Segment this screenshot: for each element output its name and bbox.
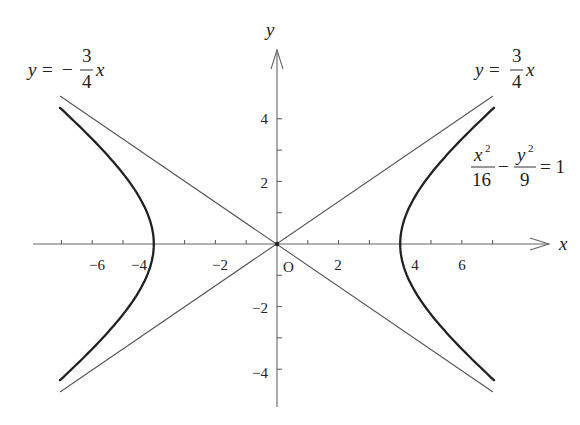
y-tick-label: 2 — [261, 175, 269, 191]
x-axis — [33, 238, 549, 250]
y-tick-label: 4 — [261, 111, 269, 127]
asymptote-right-label: y = 3 4 x — [473, 45, 535, 92]
y-tick-label: −2 — [252, 300, 268, 316]
svg-text:x: x — [525, 59, 535, 80]
y-tick-label: −4 — [252, 365, 268, 381]
x-tick-label: 4 — [411, 257, 419, 273]
x-tick-label: −2 — [212, 257, 228, 273]
svg-text:=: = — [42, 59, 53, 80]
x-tick-label: 2 — [334, 257, 342, 273]
svg-text:y: y — [515, 144, 526, 165]
svg-text:9: 9 — [520, 169, 530, 190]
svg-text:2: 2 — [528, 142, 534, 154]
y-axis — [271, 50, 283, 407]
x-tick-label: −6 — [89, 257, 105, 273]
x-tick-label: 6 — [458, 257, 466, 273]
svg-text:−: − — [498, 156, 509, 177]
svg-text:4: 4 — [512, 71, 522, 92]
origin-label: O — [283, 259, 294, 275]
svg-text:3: 3 — [512, 45, 522, 66]
svg-text:16: 16 — [472, 169, 491, 190]
svg-text:−: − — [62, 59, 73, 80]
x-axis-label: x — [558, 233, 568, 254]
svg-text:x: x — [473, 144, 483, 165]
svg-text:y: y — [26, 59, 37, 80]
y-axis-label: y — [264, 19, 275, 40]
origin-point — [275, 242, 279, 246]
svg-text:y: y — [473, 59, 484, 80]
svg-text:=: = — [489, 59, 500, 80]
x-tick-label: −4 — [131, 257, 147, 273]
svg-text:2: 2 — [485, 142, 491, 154]
hyperbola-figure: x y O −6 −4 −2 2 4 6 4 2 −2 −4 y = − 3 4… — [0, 0, 580, 425]
svg-text:= 1: = 1 — [540, 156, 565, 177]
svg-text:x: x — [95, 59, 105, 80]
svg-text:3: 3 — [82, 45, 92, 66]
hyperbola-equation-label: x 2 16 − y 2 9 = 1 — [471, 142, 565, 190]
svg-text:4: 4 — [82, 71, 92, 92]
asymptote-left-label: y = − 3 4 x — [26, 45, 105, 92]
